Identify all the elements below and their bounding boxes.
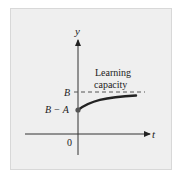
learning-curve-chart: y t 0 B B − A Learning capacity [0,0,180,181]
origin-label: 0 [67,137,72,148]
annotation-line2: capacity [94,79,127,90]
annotation-line1: Learning [95,67,131,78]
b-label: B [64,87,70,98]
learning-curve [78,96,136,111]
y-axis-label: y [74,25,80,37]
x-axis-label: t [152,128,156,140]
b-minus-a-label: B − A [45,104,70,115]
start-point [75,107,80,112]
